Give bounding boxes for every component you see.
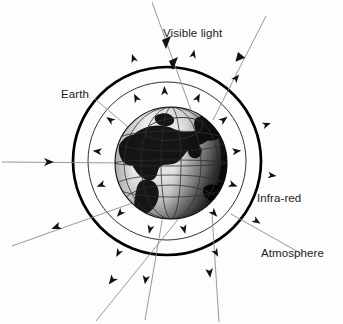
reflected-ray-bottom-right (205, 214, 219, 322)
visible-ray-left-horizontal (2, 158, 130, 166)
infrared-arrowhead (92, 147, 102, 155)
infrared-arrowhead (232, 147, 242, 155)
earth-globe (112, 104, 232, 225)
reflected-ray-lower-left-lower (96, 212, 184, 321)
infrared-arrowhead (129, 53, 138, 63)
infrared-arrowhead (161, 86, 168, 95)
infrared-arrowhead (209, 208, 220, 219)
ray-arrowhead (205, 268, 214, 278)
ray-arrowhead (141, 275, 150, 285)
infrared-arrowhead (251, 216, 262, 226)
label-visible-light: Visible light (163, 27, 222, 39)
infrared-arrowhead (228, 180, 239, 190)
infrared-arrowhead (95, 180, 106, 190)
infrared-arrowhead (104, 114, 115, 125)
infrared-arrowhead (193, 92, 203, 103)
infrared-arrowhead (268, 172, 277, 180)
globe-limb-shading (112, 104, 232, 224)
label-infra-red: Infra-red (257, 192, 301, 204)
infrared-arrowhead (145, 224, 154, 234)
infrared-arrowhead (262, 120, 272, 129)
infrared-arrowhead (131, 92, 141, 103)
infrared-arrowhead (211, 248, 221, 259)
label-earth: Earth (61, 88, 89, 100)
label-atmosphere: Atmosphere (261, 247, 324, 259)
diagram-canvas (0, 0, 343, 324)
infrared-arrowhead (218, 114, 229, 125)
ray-arrowhead (50, 222, 62, 233)
earth-energy-diagram: Visible light Earth Infra-red Atmosphere (0, 0, 343, 324)
globe-landmasses (112, 104, 232, 224)
infrared-arrowhead (189, 49, 198, 59)
ray-arrowhead (105, 274, 118, 287)
infrared-arrowhead (180, 224, 189, 234)
infrared-arrowhead (113, 248, 123, 259)
visible-ray-top (152, 2, 196, 124)
infrared-arrowhead (114, 208, 125, 219)
